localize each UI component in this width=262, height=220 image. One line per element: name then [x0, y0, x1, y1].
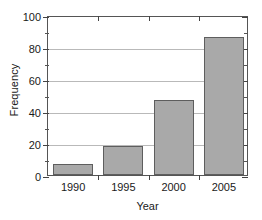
- bar: [53, 164, 93, 175]
- y-axis-tick-label: 20: [29, 139, 41, 151]
- y-axis-tick: [43, 113, 49, 114]
- y-axis-tick: [43, 177, 49, 178]
- y-axis-minor-tick: [45, 97, 49, 98]
- x-axis-tick-top: [98, 16, 99, 21]
- y-axis-minor-tick-right: [244, 65, 248, 66]
- y-axis-minor-tick: [45, 33, 49, 34]
- y-axis-tick-label: 60: [29, 75, 41, 87]
- y-axis-minor-tick: [45, 65, 49, 66]
- y-axis-minor-tick: [45, 161, 49, 162]
- bar: [154, 100, 194, 175]
- x-axis-tick-top: [199, 16, 200, 21]
- y-axis-tick: [43, 145, 49, 146]
- x-axis-tick-label: 1990: [61, 181, 85, 193]
- y-axis-tick-right: [242, 177, 248, 178]
- y-axis-minor-tick-right: [244, 129, 248, 130]
- y-axis-tick-label: 40: [29, 107, 41, 119]
- y-axis-minor-tick-right: [244, 33, 248, 34]
- x-axis-tick-label: 2005: [212, 181, 236, 193]
- bar: [204, 37, 244, 175]
- y-axis-tick-label: 0: [35, 171, 41, 183]
- y-axis-tick-right: [242, 17, 248, 18]
- y-axis-title: Frequency: [2, 0, 26, 180]
- x-axis-tick: [199, 175, 200, 180]
- x-axis-tick: [98, 175, 99, 180]
- plot-area: 0204060801001990199520002005: [47, 16, 248, 176]
- y-axis-tick: [43, 17, 49, 18]
- y-axis-minor-tick-right: [244, 97, 248, 98]
- y-axis-tick-label: 100: [23, 11, 41, 23]
- y-axis-tick-label: 80: [29, 43, 41, 55]
- x-axis-tick-label: 1995: [111, 181, 135, 193]
- x-axis-tick: [149, 175, 150, 180]
- bar: [103, 146, 143, 175]
- y-axis-title-label: Frequency: [8, 64, 20, 117]
- y-axis-minor-tick: [45, 129, 49, 130]
- x-axis-title: Year: [47, 200, 248, 212]
- x-axis-tick-top: [149, 16, 150, 21]
- bar-chart-figure: Frequency Stat 0204060801001990199520002…: [0, 0, 262, 220]
- y-axis-tick: [43, 81, 49, 82]
- y-axis-tick: [43, 49, 49, 50]
- x-axis-tick-label: 2000: [161, 181, 185, 193]
- y-axis-minor-tick-right: [244, 161, 248, 162]
